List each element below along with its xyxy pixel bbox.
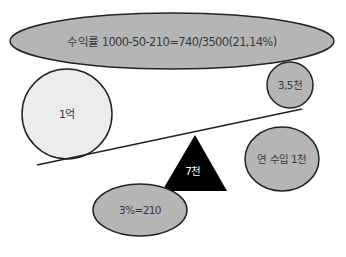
right-weight-label: 3,5천 <box>278 79 302 91</box>
annual-income-label: 연 수입 1천 <box>257 153 306 165</box>
interest-label: 3%=210 <box>119 204 161 216</box>
top-banner-ellipse: 수익률 1000-50-210=740/3500(21,14%) <box>10 13 334 69</box>
right-weight-circle: 3,5천 <box>267 62 313 108</box>
left-weight-circle: 1억 <box>22 69 112 159</box>
top-banner-label: 수익률 1000-50-210=740/3500(21,14%) <box>67 35 276 49</box>
left-weight-label: 1억 <box>59 108 75 121</box>
fulcrum-triangle: 7천 <box>162 135 227 191</box>
fulcrum-label: 7천 <box>185 165 200 177</box>
balance-diagram: 수익률 1000-50-210=740/3500(21,14%) 3,5천 1억… <box>0 0 346 257</box>
interest-ellipse: 3%=210 <box>93 184 187 236</box>
annual-income-ellipse: 연 수입 1천 <box>245 127 319 191</box>
